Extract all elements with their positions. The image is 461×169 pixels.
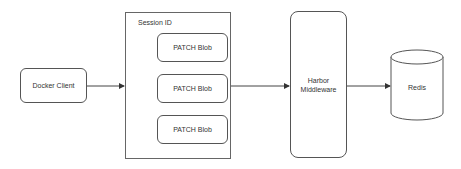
- patch-blob-label: PATCH Blob: [173, 84, 212, 93]
- docker-client-node[interactable]: Docker Client: [20, 68, 87, 103]
- patch-blob-label: PATCH Blob: [173, 125, 212, 134]
- docker-client-label: Docker Client: [32, 81, 74, 90]
- harbor-middleware-label-line1: Harbor: [308, 76, 329, 85]
- patch-blob-label: PATCH Blob: [173, 43, 212, 52]
- harbor-middleware-node[interactable]: Harbor Middleware: [290, 11, 347, 158]
- harbor-middleware-label-line2: Middleware: [301, 85, 337, 94]
- session-id-label: Session ID: [138, 19, 172, 26]
- patch-blob-node-3[interactable]: PATCH Blob: [157, 115, 228, 144]
- patch-blob-node-2[interactable]: PATCH Blob: [157, 74, 228, 103]
- redis-label: Redis: [391, 84, 443, 91]
- patch-blob-node-1[interactable]: PATCH Blob: [157, 33, 228, 62]
